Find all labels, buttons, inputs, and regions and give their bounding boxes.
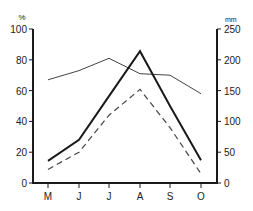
right-tick-label: 100 — [224, 116, 241, 127]
left-tick-label: 20 — [16, 147, 28, 158]
left-tick-label: 60 — [16, 86, 28, 97]
x-tick-label: S — [167, 191, 174, 202]
left-tick-label: 100 — [10, 24, 27, 35]
left-tick-label: 80 — [16, 55, 28, 66]
left-tick-label: 40 — [16, 116, 28, 127]
right-tick-label: 50 — [224, 147, 236, 158]
x-tick-label: A — [137, 191, 144, 202]
left-tick-label: 0 — [21, 178, 27, 189]
right-tick-label: 150 — [224, 86, 241, 97]
right-tick-label: 0 — [224, 178, 230, 189]
series-dashed-line — [48, 89, 201, 173]
series-bold-solid-line — [48, 51, 201, 161]
series-thin-solid-line — [48, 58, 201, 93]
right-tick-label: 200 — [224, 55, 241, 66]
x-tick-label: J — [107, 191, 112, 202]
right-axis-unit: mm — [225, 16, 237, 23]
labels-layer: 020406080100%050100150200250mmMJJASO — [10, 13, 241, 202]
x-tick-label: O — [197, 191, 205, 202]
climate-chart: 020406080100%050100150200250mmMJJASO — [0, 0, 253, 211]
x-tick-label: M — [44, 191, 52, 202]
left-axis-unit: % — [18, 13, 25, 22]
series-layer — [48, 51, 201, 174]
x-tick-label: J — [77, 191, 82, 202]
chart-svg: 020406080100%050100150200250mmMJJASO — [0, 0, 253, 211]
right-tick-label: 250 — [224, 24, 241, 35]
